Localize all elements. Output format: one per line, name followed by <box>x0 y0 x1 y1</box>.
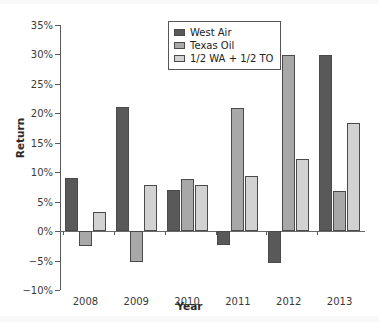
bar <box>79 231 92 246</box>
y-tick-label: 5% <box>37 196 53 207</box>
y-tick-label: 20% <box>31 108 53 119</box>
legend-label: West Air <box>190 26 232 39</box>
y-tick-mark <box>55 84 60 85</box>
y-tick-label: 0% <box>37 226 53 237</box>
bar <box>319 55 332 231</box>
y-tick-mark <box>55 54 60 55</box>
y-tick-label: 10% <box>31 167 53 178</box>
y-axis-line <box>60 25 61 290</box>
y-tick-mark <box>55 172 60 173</box>
y-tick-mark <box>55 290 60 291</box>
x-tick-mark <box>317 231 318 235</box>
x-tick-mark <box>114 231 115 235</box>
y-tick-label: −5% <box>29 255 53 266</box>
bar <box>130 231 143 262</box>
bar <box>93 212 106 231</box>
x-axis-title: Year <box>0 300 379 312</box>
scan-artifact-top <box>0 0 379 4</box>
y-tick-mark <box>55 25 60 26</box>
x-tick-mark <box>216 231 217 235</box>
legend-label: 1/2 WA + 1/2 TO <box>190 52 273 65</box>
y-tick-label: 30% <box>31 49 53 60</box>
chart-legend: West AirTexas Oil1/2 WA + 1/2 TO <box>168 21 281 70</box>
y-tick-mark <box>55 113 60 114</box>
y-tick-mark <box>55 231 60 232</box>
bar <box>144 185 157 232</box>
bar <box>268 231 281 263</box>
x-tick-mark <box>63 231 64 235</box>
bar <box>195 185 208 231</box>
x-tick-mark <box>165 231 166 235</box>
legend-swatch-icon <box>174 42 185 49</box>
bar <box>282 55 295 231</box>
legend-swatch-icon <box>174 29 185 36</box>
bar-chart: Return −10%−5%0%5%10%15%20%25%30%35% 200… <box>0 0 379 322</box>
x-tick-mark <box>266 231 267 235</box>
bar <box>347 123 360 231</box>
bar <box>167 190 180 231</box>
y-tick-label: 25% <box>31 78 53 89</box>
y-tick-mark <box>55 261 60 262</box>
bar <box>333 191 346 231</box>
bar <box>296 159 309 231</box>
legend-item: West Air <box>174 26 273 39</box>
bar <box>217 231 230 245</box>
bar <box>231 108 244 231</box>
legend-swatch-icon <box>174 55 185 62</box>
y-tick-label: 15% <box>31 137 53 148</box>
zero-baseline <box>60 231 365 232</box>
bar <box>181 179 194 231</box>
bar <box>245 176 258 231</box>
y-tick-label: −10% <box>22 285 53 296</box>
legend-item: Texas Oil <box>174 39 273 52</box>
scan-artifact-bottom <box>0 316 379 322</box>
y-tick-label: 35% <box>31 20 53 31</box>
y-tick-mark <box>55 143 60 144</box>
legend-label: Texas Oil <box>190 39 234 52</box>
y-axis-title: Return <box>14 117 26 157</box>
y-tick-mark <box>55 202 60 203</box>
bar <box>116 107 129 231</box>
legend-item: 1/2 WA + 1/2 TO <box>174 52 273 65</box>
bar <box>65 178 78 231</box>
